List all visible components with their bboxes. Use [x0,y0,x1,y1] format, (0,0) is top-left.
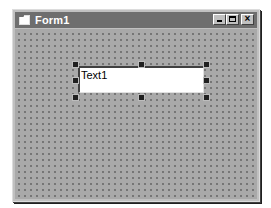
title-bar[interactable]: Form1 × [15,12,257,28]
resize-handle-top-right[interactable] [203,61,210,68]
resize-handle-top-left[interactable] [72,61,79,68]
resize-handle-bottom[interactable] [138,94,145,101]
resize-handle-right[interactable] [203,77,210,84]
form-window: Form1 × Text1 [12,9,260,202]
maximize-icon [229,16,236,22]
close-button[interactable]: × [241,14,254,25]
window-title: Form1 [35,14,70,26]
maximize-button[interactable] [226,14,239,25]
resize-handle-top[interactable] [138,61,145,68]
form-design-surface[interactable]: Text1 [15,29,257,199]
minimize-button[interactable] [213,14,226,25]
close-icon: × [242,13,253,24]
resize-handle-bottom-right[interactable] [203,94,210,101]
textbox-text1[interactable]: Text1 [78,66,204,93]
textbox-value: Text1 [81,69,107,81]
resize-handle-left[interactable] [72,77,79,84]
form-icon[interactable] [19,15,30,25]
resize-handle-bottom-left[interactable] [72,94,79,101]
title-bar-buttons: × [213,14,254,25]
minimize-icon [217,20,222,22]
